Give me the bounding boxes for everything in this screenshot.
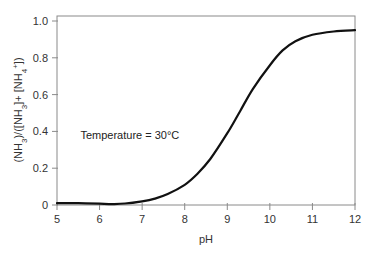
- data-line: [57, 30, 355, 204]
- y-tick-label: 0.4: [33, 125, 48, 137]
- x-tick-label: 7: [139, 213, 145, 225]
- y-tick-label: 0.6: [33, 89, 48, 101]
- x-tick-label: 5: [54, 213, 60, 225]
- x-axis-label: pH: [199, 233, 213, 245]
- temperature-annotation: Temperature = 30°C: [80, 129, 179, 141]
- y-tick-label: 0: [42, 199, 48, 211]
- y-tick-label: 0.8: [33, 52, 48, 64]
- y-axis-label: (NH3)/([NH3]+ [NH4+]): [11, 57, 29, 162]
- x-tick-label: 9: [224, 213, 230, 225]
- x-tick-label: 12: [349, 213, 361, 225]
- y-tick-label: 0.2: [33, 162, 48, 174]
- chart: 00.20.40.60.81.0 56789101112 Temperature…: [0, 0, 373, 254]
- x-tick-label: 11: [307, 213, 318, 225]
- x-axis-ticks: 56789101112: [54, 203, 361, 225]
- plot-frame: [57, 16, 355, 205]
- y-tick-label: 1.0: [33, 15, 48, 27]
- y-axis-ticks: 00.20.40.60.81.0: [33, 15, 58, 211]
- x-tick-label: 8: [182, 213, 188, 225]
- x-tick-label: 10: [264, 213, 276, 225]
- x-tick-label: 6: [97, 213, 103, 225]
